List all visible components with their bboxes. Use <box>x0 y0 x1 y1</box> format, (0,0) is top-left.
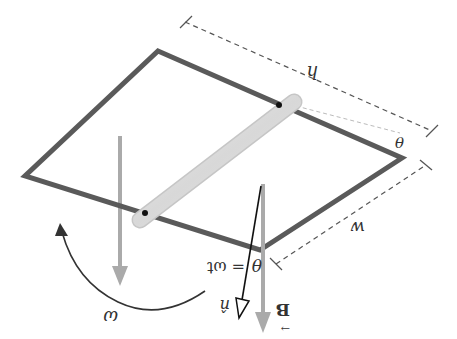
dimension-w <box>270 160 432 270</box>
label-B-vector-arrow: → <box>281 322 290 335</box>
conducting-loop <box>25 51 402 250</box>
label-theta-equals-omega-t: = ωt <box>206 258 245 277</box>
label-h: h <box>306 62 318 83</box>
label-B: B <box>276 300 290 320</box>
label-theta-normal: θ <box>252 255 262 275</box>
field-arrow-left <box>112 136 128 286</box>
label-n-hat: n̂ <box>220 296 230 315</box>
rotation-arrow <box>55 223 205 310</box>
diagram-canvas: h θ w θ = ωt n̂ B → ω <box>0 0 457 339</box>
rotation-axis-rod <box>140 102 294 220</box>
label-theta-corner: θ <box>395 133 404 151</box>
label-w: w <box>350 218 365 238</box>
normal-vector <box>236 186 261 318</box>
label-omega: ω <box>103 307 118 328</box>
